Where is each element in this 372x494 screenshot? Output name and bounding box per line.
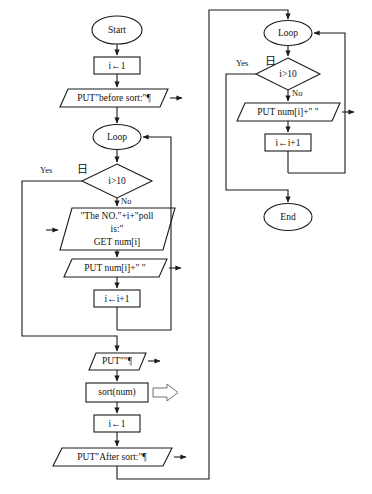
put-before-io: [60, 89, 168, 107]
increment-left-process: [94, 290, 140, 307]
sort-callout-arrow: [153, 384, 178, 401]
decision-right-yes-label: Yes: [236, 58, 248, 68]
put-after-io: [53, 448, 172, 466]
flowchart-svg: [0, 0, 372, 494]
put-blank-io: [89, 353, 146, 370]
loop-right-terminator: [264, 21, 312, 46]
increment-right-process: [265, 134, 311, 151]
put-num-right-io: [237, 103, 340, 121]
start-terminator: [92, 16, 142, 44]
decision-left-yes-label: Yes: [40, 165, 52, 175]
sort-process: [86, 383, 148, 402]
decision-left-diamond: [82, 164, 152, 198]
collapse-marker-right-icon[interactable]: 日: [265, 52, 276, 68]
decision-right-no-label: No: [292, 88, 302, 98]
flowchart-canvas: Start i←1 PUT"before sort:"¶ Loop i>10 Y…: [0, 0, 372, 494]
collapse-marker-left-icon[interactable]: 日: [77, 160, 88, 176]
end-terminator: [264, 204, 312, 231]
init-i-process: [94, 57, 140, 74]
put-num-left-io: [64, 259, 167, 277]
loop-left-terminator: [93, 125, 141, 150]
reset-i-process: [94, 415, 140, 432]
input-prompt-io: [60, 208, 175, 250]
decision-left-no-label: No: [121, 196, 131, 206]
